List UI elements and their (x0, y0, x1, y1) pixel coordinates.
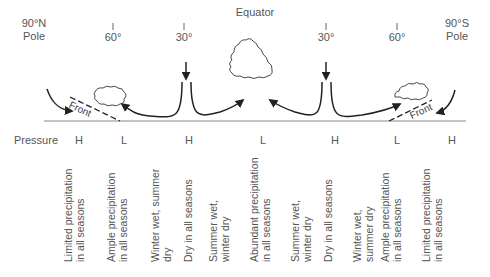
pressure-low: L (121, 134, 127, 146)
surface-wind-south-westerlies (331, 82, 400, 116)
latitude-ticks (113, 23, 397, 30)
pressure-high: H (448, 134, 456, 146)
surface-wind-north-westerlies (122, 82, 182, 117)
zone-label: Limited precipitationin all seasons (62, 169, 86, 262)
zone-label: Limited precipitationin all seasons (420, 169, 444, 262)
zone-label: Dry in all seasons (322, 179, 334, 262)
cloud-60s (395, 83, 428, 100)
zone-label: Winter wet, summerdry (149, 169, 173, 262)
cloud-equator (230, 39, 272, 79)
zone-label: Ample precipitationin all seasons (379, 173, 403, 262)
pressure-high: H (331, 134, 339, 146)
latitude-30n: 30° (169, 31, 199, 43)
zone-label: Dry in all seasons (182, 179, 194, 262)
latitude-60s: 60° (382, 31, 412, 43)
equator-label: Equator (225, 6, 285, 19)
zone-label: Abundant precipitationin all seasons (248, 158, 272, 263)
zone-label: Summer wet,winter dry (207, 200, 231, 262)
zone-label: Winter wet,summer dry (351, 207, 375, 262)
latitude-30s: 30° (311, 31, 341, 43)
trade-wind-north (191, 82, 243, 115)
zone-label: Ample precipitationin all seasons (105, 173, 129, 262)
polar-easterly-south (437, 90, 455, 113)
pressure-low: L (394, 134, 400, 146)
pressure-high: H (185, 134, 193, 146)
pressure-high: H (75, 134, 83, 146)
latitude-60n: 60° (98, 31, 128, 43)
zone-label: Summer wet,winter dry (289, 200, 313, 262)
trade-wind-south (270, 82, 322, 115)
north-pole-label: 90°N Pole (14, 17, 54, 43)
cloud-60n (94, 86, 126, 106)
pressure-label: Pressure (14, 134, 58, 146)
pressure-low: L (260, 134, 266, 146)
south-pole-label: 90°S Pole (437, 17, 477, 43)
